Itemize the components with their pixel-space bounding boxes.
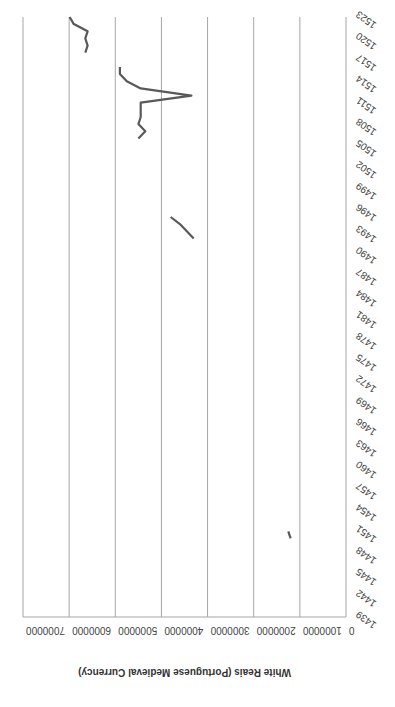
year-tick: 1469 bbox=[353, 394, 378, 416]
series-segment bbox=[70, 17, 88, 53]
year-tick: 1496 bbox=[353, 202, 378, 224]
year-tick: 1481 bbox=[353, 309, 378, 331]
year-tick: 1490 bbox=[353, 244, 378, 266]
value-tick-labels: 0100000020000003000000400000050000006000… bbox=[26, 625, 355, 636]
year-tick: 1484 bbox=[353, 287, 378, 309]
year-tick: 1460 bbox=[353, 459, 378, 481]
year-tick: 1445 bbox=[353, 566, 378, 588]
value-tick: 6000000 bbox=[72, 625, 111, 636]
value-tick: 4000000 bbox=[164, 625, 203, 636]
year-tick: 1475 bbox=[353, 352, 378, 374]
gridlines bbox=[23, 17, 300, 617]
year-tick: 1511 bbox=[354, 95, 378, 117]
year-tick-labels: 1439144214451448145114541457146014631466… bbox=[353, 9, 378, 631]
series-segment bbox=[171, 217, 194, 238]
value-tick: 3000000 bbox=[210, 625, 249, 636]
year-tick: 1439 bbox=[353, 609, 378, 631]
data-series-white-reais bbox=[70, 17, 291, 538]
y-axis-title: White Reais (Portuguese Medieval Currenc… bbox=[78, 667, 291, 678]
year-tick: 1478 bbox=[353, 330, 378, 352]
value-tick: 2000000 bbox=[256, 625, 295, 636]
year-tick: 1454 bbox=[353, 502, 378, 524]
series-segment bbox=[120, 67, 191, 138]
year-tick: 1517 bbox=[353, 52, 378, 74]
year-tick: 1520 bbox=[353, 30, 378, 52]
year-tick: 1502 bbox=[353, 159, 378, 181]
value-tick: 7000000 bbox=[26, 625, 65, 636]
value-tick: 1000000 bbox=[302, 625, 341, 636]
year-tick: 1457 bbox=[353, 480, 378, 502]
year-tick: 1442 bbox=[353, 587, 378, 609]
year-tick: 1466 bbox=[353, 416, 378, 438]
value-tick: 5000000 bbox=[118, 625, 157, 636]
year-tick: 1514 bbox=[353, 73, 378, 95]
year-tick: 1508 bbox=[353, 116, 378, 138]
series-segment bbox=[288, 531, 290, 538]
year-tick: 1505 bbox=[353, 137, 378, 159]
year-tick: 1487 bbox=[353, 266, 378, 288]
year-tick: 1493 bbox=[353, 223, 378, 245]
line-chart: 1439144214451448145114541457146014631466… bbox=[0, 0, 395, 707]
year-tick: 1463 bbox=[353, 437, 378, 459]
year-tick: 1472 bbox=[353, 373, 378, 395]
year-tick: 1523 bbox=[353, 9, 378, 31]
year-tick: 1451 bbox=[353, 523, 378, 545]
year-tick: 1499 bbox=[353, 180, 378, 202]
category-axis bbox=[23, 17, 346, 617]
value-tick: 0 bbox=[349, 625, 355, 636]
year-tick: 1448 bbox=[353, 544, 378, 566]
